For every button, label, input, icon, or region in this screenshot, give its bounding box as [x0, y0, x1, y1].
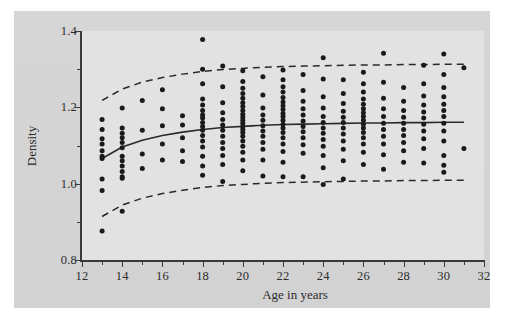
data-point [321, 114, 326, 119]
data-point [200, 116, 205, 121]
data-point [321, 153, 326, 158]
data-point [160, 123, 165, 128]
data-point [260, 140, 265, 145]
data-point [200, 96, 205, 101]
data-point [200, 154, 205, 159]
data-point [281, 135, 286, 140]
data-point [100, 148, 105, 153]
data-point [401, 140, 406, 145]
data-point [240, 86, 245, 91]
data-point [421, 146, 426, 151]
x-tick-major [363, 260, 364, 267]
data-point [281, 130, 286, 135]
data-point [120, 164, 125, 169]
x-tick-label: 18 [196, 269, 209, 284]
data-point [120, 140, 125, 145]
data-point [100, 141, 105, 146]
data-point [461, 65, 466, 70]
data-point [421, 81, 426, 86]
data-point [401, 108, 406, 113]
data-point [401, 121, 406, 126]
data-point [361, 130, 366, 135]
data-point [120, 131, 125, 136]
x-tick-minor [464, 260, 465, 265]
data-point [220, 110, 225, 115]
data-point [301, 142, 306, 147]
data-point [381, 152, 386, 157]
data-point [120, 106, 125, 111]
x-tick-major [283, 260, 284, 267]
data-point [441, 121, 446, 126]
data-point [441, 138, 446, 143]
data-point [421, 122, 426, 127]
data-point [421, 116, 426, 121]
x-tick-label: 26 [357, 269, 370, 284]
data-point [321, 77, 326, 82]
data-point [301, 119, 306, 124]
data-point [120, 169, 125, 174]
data-point [301, 135, 306, 140]
data-point [321, 55, 326, 60]
x-tick-major [203, 260, 204, 267]
data-point [301, 112, 306, 117]
data-point [401, 115, 406, 120]
data-point [200, 37, 205, 42]
data-point [281, 90, 286, 95]
data-point [160, 106, 165, 111]
x-tick-minor [183, 260, 184, 265]
data-point [281, 77, 286, 82]
data-point [120, 176, 125, 181]
data-point [381, 127, 386, 132]
data-point [281, 174, 286, 179]
x-tick-major [82, 260, 83, 267]
data-point [421, 63, 426, 68]
data-point [321, 144, 326, 149]
data-point [361, 102, 366, 107]
data-point [220, 153, 225, 158]
data-point [160, 158, 165, 163]
data-point [441, 85, 446, 90]
data-point [100, 156, 105, 161]
data-point [220, 140, 225, 145]
data-point [321, 131, 326, 136]
data-point [240, 168, 245, 173]
data-point [281, 84, 286, 89]
data-point [341, 101, 346, 106]
data-point [381, 106, 386, 111]
data-point [381, 51, 386, 56]
data-point [421, 129, 426, 134]
data-point [381, 141, 386, 146]
data-point [200, 108, 205, 113]
data-point [441, 102, 446, 107]
data-point [361, 162, 366, 167]
x-tick-major [444, 260, 445, 267]
y-axis-title: Density [24, 126, 40, 166]
data-point [441, 114, 446, 119]
data-point [301, 174, 306, 179]
data-point [180, 148, 185, 153]
data-point [200, 138, 205, 143]
data-point [361, 70, 366, 75]
data-point [240, 79, 245, 84]
data-point [100, 117, 105, 122]
x-tick-minor [263, 260, 264, 265]
x-tick-label: 28 [397, 269, 410, 284]
data-point [160, 141, 165, 146]
data-point [341, 158, 346, 163]
data-point [260, 174, 265, 179]
data-point [421, 136, 426, 141]
data-point [200, 145, 205, 150]
data-point [341, 120, 346, 125]
data-point [260, 147, 265, 152]
data-point [421, 93, 426, 98]
data-point [381, 167, 386, 172]
data-point [321, 94, 326, 99]
data-point [120, 209, 125, 214]
data-point [220, 162, 225, 167]
x-tick-label: 20 [236, 269, 249, 284]
data-point [140, 128, 145, 133]
data-point [401, 148, 406, 153]
data-point [381, 96, 386, 101]
data-point [421, 109, 426, 114]
data-point [260, 93, 265, 98]
